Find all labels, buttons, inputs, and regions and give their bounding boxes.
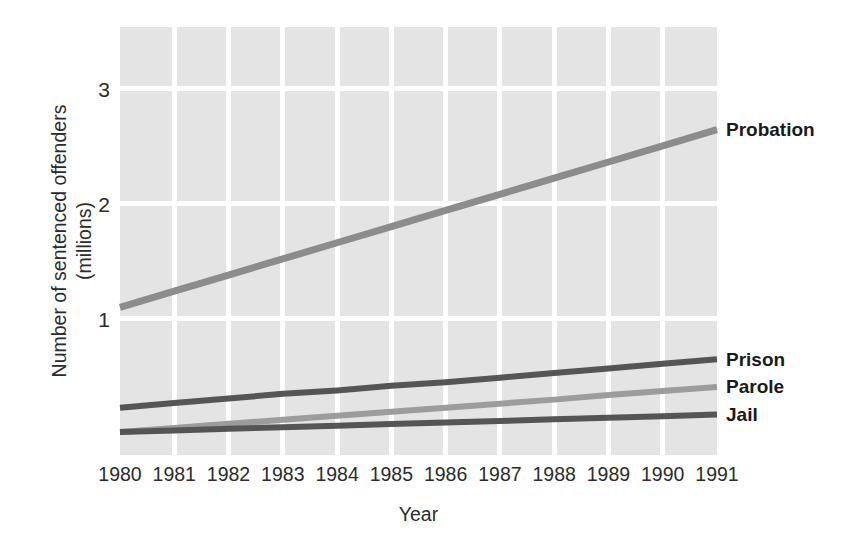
y-axis-title: Number of sentenced offenders (millions) xyxy=(47,76,97,406)
series-line-probation xyxy=(120,130,717,308)
series-label-probation: Probation xyxy=(726,120,815,139)
y-axis-title-line-2: (millions) xyxy=(72,76,97,406)
series-label-prison: Prison xyxy=(726,350,785,369)
x-axis-tick-labels: 1980198119821983198419851986198719881989… xyxy=(120,462,717,490)
x-tick-1991: 1991 xyxy=(682,462,752,486)
line-chart: 3 2 1 Number of sentenced offenders (mil… xyxy=(0,0,845,549)
plot-area xyxy=(120,27,717,455)
series-label-jail: Jail xyxy=(726,405,758,424)
series-line-prison xyxy=(120,359,717,407)
y-axis-title-line-1: Number of sentenced offenders xyxy=(47,76,72,406)
series-lines xyxy=(120,27,717,455)
series-label-parole: Parole xyxy=(726,377,784,396)
x-axis-title: Year xyxy=(120,502,717,526)
